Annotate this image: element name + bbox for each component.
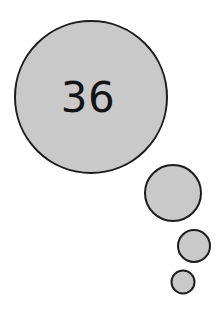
thought-bubble-graphic: 36	[0, 0, 223, 312]
trail-bubble-3-circle[interactable]	[172, 271, 195, 294]
figure-canvas: 36	[0, 0, 223, 312]
trail-bubble-1-circle[interactable]	[145, 165, 201, 221]
bubble-number-label: 36	[61, 73, 115, 122]
trail-bubble-2-circle[interactable]	[178, 230, 210, 262]
